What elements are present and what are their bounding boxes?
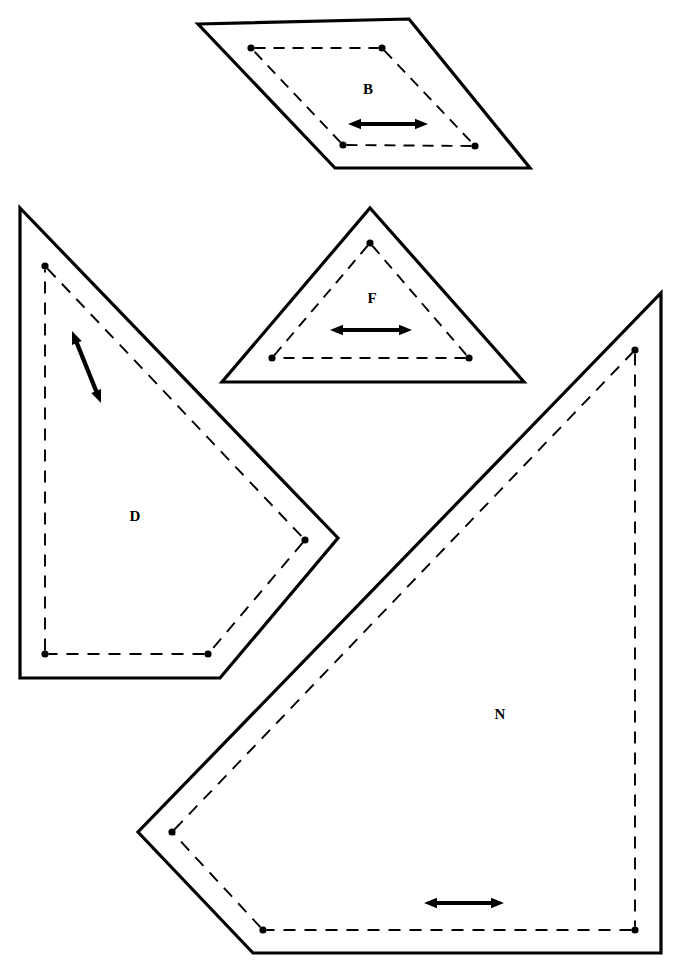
vertex-dot-B-4 [339,141,346,148]
shape-label-N: N [495,706,506,722]
shape-label-F: F [367,290,376,306]
vertex-dot-F-2 [465,354,472,361]
shape-outline-D [20,208,338,678]
vertex-dot-N-1 [631,346,638,353]
shape-canvas: BFDN [0,0,680,970]
vertex-dot-D-3 [204,650,211,657]
shapes-layer: BFDN [20,19,661,953]
vertex-dot-F-1 [366,239,373,246]
vertex-dot-D-2 [301,536,308,543]
vertex-dot-B-1 [247,44,254,51]
vertex-dot-D-1 [41,262,48,269]
vertex-dot-N-4 [168,828,175,835]
vertex-dot-B-3 [471,142,478,149]
shape-group-D: D [20,208,338,678]
vertex-dot-D-4 [41,650,48,657]
shape-label-D: D [130,508,141,524]
vertex-dot-N-2 [631,926,638,933]
vertex-dot-F-3 [268,354,275,361]
shape-label-B: B [363,81,373,97]
shape-group-B: B [198,19,530,168]
vertex-dot-N-3 [259,926,266,933]
vertex-dot-B-2 [378,44,385,51]
shape-group-F: F [222,208,524,382]
shape-diagram: BFDN [0,0,680,970]
